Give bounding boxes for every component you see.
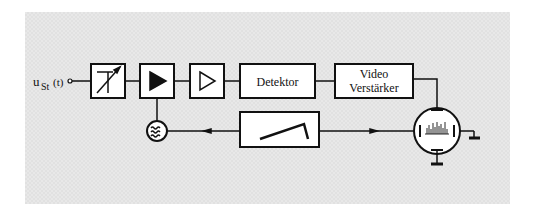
local-oscillator — [147, 121, 167, 141]
if-amplifier-block — [190, 64, 224, 98]
input-label-suffix: (t) — [53, 76, 64, 89]
sweep-generator-block — [240, 112, 319, 147]
attenuator-block — [91, 64, 125, 98]
crt-display — [414, 108, 480, 164]
arrow-right-icon — [370, 129, 377, 133]
input-label-u: u — [33, 74, 40, 89]
block-diagram: u St (t) Detektor — [0, 0, 536, 215]
video-amp-label-line2: Verstärker — [349, 81, 398, 95]
mixer-block — [140, 64, 174, 98]
video-amp-label-line1: Video — [360, 67, 389, 81]
wire-video-crt — [413, 79, 437, 108]
detector-label: Detektor — [257, 75, 299, 89]
arrow-left-icon — [204, 129, 211, 133]
input-label-subscript: St — [41, 81, 50, 92]
input-terminal — [68, 79, 72, 83]
